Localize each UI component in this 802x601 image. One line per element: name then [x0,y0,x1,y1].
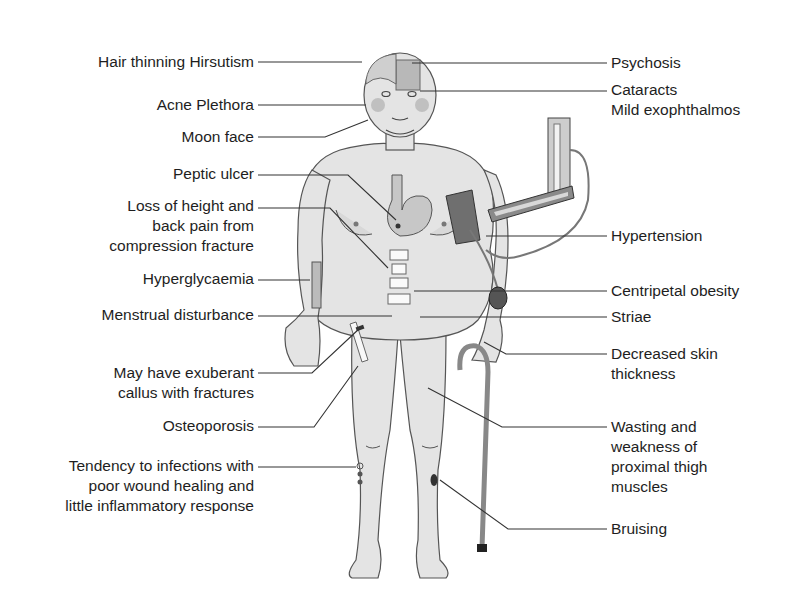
label-loss-of-height: Loss of height and back pain from compre… [109,196,254,256]
label-acne-plethora: Acne Plethora [157,95,254,115]
right-leg [400,330,448,578]
label-psychosis: Psychosis [611,53,681,73]
label-bruising: Bruising [611,519,667,539]
label-moon-face: Moon face [182,127,254,147]
label-hair-thinning-hirsutism: Hair thinning Hirsutism [98,52,254,72]
syringe-icon [312,262,321,308]
brain-icon [396,60,420,90]
label-osteoporosis: Osteoporosis [163,416,254,436]
label-peptic-ulcer: Peptic ulcer [173,164,254,184]
label-menstrual-disturbance: Menstrual disturbance [102,305,255,325]
label-hypertension: Hypertension [611,226,702,246]
label-striae: Striae [611,307,652,327]
label-cataracts-exophthalmos: Cataracts Mild exophthalmos [611,80,740,120]
label-proximal-muscle-wasting: Wasting and weakness of proximal thigh m… [611,417,708,497]
label-exuberant-callus: May have exuberant callus with fractures [114,363,254,403]
label-infections-wound-healing: Tendency to infections with poor wound h… [65,456,254,516]
walking-cane-icon [460,346,488,548]
label-decreased-skin-thickness: Decreased skin thickness [611,344,718,384]
label-hyperglycaemia: Hyperglycaemia [143,269,254,289]
label-centripetal-obesity: Centripetal obesity [611,281,739,301]
